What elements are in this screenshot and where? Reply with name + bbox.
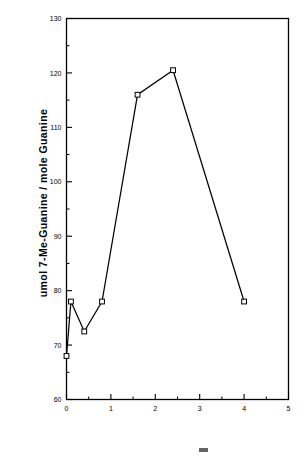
x-axis-tick-label: 1	[109, 405, 113, 412]
y-axis-tick-label: 90	[54, 233, 62, 240]
data-point-marker	[82, 329, 87, 334]
data-point-marker	[242, 299, 247, 304]
series-line	[67, 70, 245, 356]
y-axis-tick-label: 120	[50, 70, 62, 77]
data-markers-group	[64, 68, 246, 359]
plot-border	[67, 19, 289, 400]
chart-figure: umol 7-Me-Guanine / mole Guanine 0123456…	[0, 0, 307, 458]
data-point-marker	[64, 354, 69, 359]
x-axis-tick-label: 2	[153, 405, 157, 412]
data-series-group	[67, 70, 245, 356]
x-axis-tick-label: 3	[198, 405, 202, 412]
data-point-marker	[69, 299, 74, 304]
data-point-marker	[135, 92, 140, 97]
tick-labels-group: 01234560708090100110120130	[50, 15, 291, 412]
x-axis-tick-label: 5	[287, 405, 291, 412]
y-axis-tick-label: 70	[54, 342, 62, 349]
axes-group	[67, 19, 289, 400]
tick-marks-group	[67, 19, 289, 400]
x-axis-tick-label: 4	[242, 405, 246, 412]
y-axis-tick-label: 100	[50, 178, 62, 185]
y-axis-tick-label: 110	[50, 124, 61, 131]
x-axis-tick-label: 0	[65, 405, 69, 412]
bottom-axis-artifact	[199, 448, 208, 452]
data-point-marker	[100, 299, 105, 304]
y-axis-tick-label: 60	[54, 396, 62, 403]
line-chart-plot: 01234560708090100110120130	[0, 0, 307, 458]
data-point-marker	[171, 68, 176, 73]
y-axis-tick-label: 130	[50, 15, 62, 22]
y-axis-tick-label: 80	[54, 287, 62, 294]
